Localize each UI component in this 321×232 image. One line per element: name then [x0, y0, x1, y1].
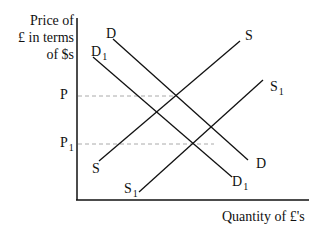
curve-label-s-top: S — [245, 29, 253, 43]
price-label-p1: P1 — [60, 136, 74, 153]
curve-label-text: S — [245, 28, 253, 43]
price-label-text: P — [60, 135, 68, 150]
demand-curve-d1 — [93, 57, 232, 177]
curve-label-text: D — [106, 26, 116, 41]
price-label-text: P — [60, 87, 68, 102]
curve-label-d-bottom: D — [256, 157, 266, 171]
curve-label-subscript: 1 — [133, 188, 138, 199]
y-axis-title: Price of £ in terms of $s — [8, 12, 74, 63]
demand-curve-d — [113, 39, 248, 160]
curve-label-d1-bottom: D1 — [232, 175, 248, 192]
curve-label-text: D — [91, 44, 101, 59]
curve-label-d1-top: D1 — [91, 45, 107, 62]
curve-label-subscript: 1 — [243, 181, 248, 192]
x-axis-title: Quantity of £'s — [222, 209, 305, 225]
curve-label-text: D — [256, 156, 266, 171]
curve-label-subscript: 1 — [102, 51, 107, 62]
curve-label-s1-bottom: S1 — [124, 182, 138, 199]
curve-label-s-bottom: S — [92, 162, 100, 176]
curve-label-text: S — [92, 161, 100, 176]
supply-demand-diagram: Price of £ in terms of $s P P1 S S S1 S1… — [0, 0, 321, 232]
price-label-subscript: 1 — [69, 142, 74, 153]
curve-label-s1-top: S1 — [270, 80, 284, 97]
y-axis-title-line: Price of — [8, 12, 74, 29]
curve-label-text: D — [232, 174, 242, 189]
curve-label-text: S — [270, 79, 278, 94]
curve-label-subscript: 1 — [279, 86, 284, 97]
y-axis-title-line: £ in terms — [8, 29, 74, 46]
supply-curve-s — [99, 41, 240, 161]
price-label-p: P — [60, 88, 68, 102]
y-axis-title-line: of $s — [8, 46, 74, 63]
curve-label-text: S — [124, 181, 132, 196]
curve-label-d-top: D — [106, 27, 116, 41]
